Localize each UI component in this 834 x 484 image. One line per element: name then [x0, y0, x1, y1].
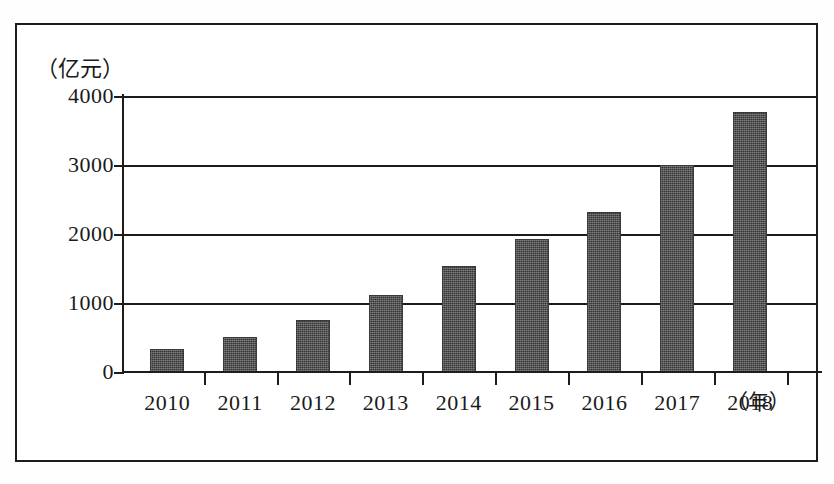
bar-2015 — [515, 239, 549, 372]
y-tick-label-1000: 1000 — [68, 292, 114, 314]
x-tick-label-2016: 2016 — [570, 392, 638, 414]
y-tick-label-3000: 3000 — [68, 154, 114, 176]
x-axis-line — [122, 371, 822, 373]
x-minor-tick-2 — [349, 373, 351, 385]
y-tick-mark-3000 — [114, 165, 124, 167]
x-minor-tick-4 — [495, 373, 497, 385]
x-minor-tick-7 — [714, 373, 716, 385]
gridline-4000 — [122, 96, 818, 98]
y-tick-label-0: 0 — [103, 361, 115, 383]
bar-2016 — [587, 212, 621, 372]
plot-area — [122, 96, 818, 372]
x-minor-tick-1 — [277, 373, 279, 385]
y-tick-label-2000: 2000 — [68, 223, 114, 245]
chart-page: （亿元） 01000200030004000 20102011201220132… — [0, 0, 834, 484]
bar-2017 — [660, 165, 694, 372]
bar-2012 — [296, 320, 330, 372]
bar-2014 — [442, 266, 476, 372]
x-minor-tick-8 — [787, 373, 789, 385]
x-axis-unit-label: （年） — [727, 392, 790, 413]
x-tick-label-2011: 2011 — [206, 392, 274, 414]
y-tick-mark-4000 — [114, 96, 124, 98]
x-tick-label-2014: 2014 — [425, 392, 493, 414]
bar-2013 — [369, 295, 403, 372]
x-axis-tick-labels: 201020112012201320142015201620172018 — [0, 392, 834, 426]
bar-2018 — [733, 112, 767, 372]
y-tick-mark-2000 — [114, 234, 124, 236]
x-tick-label-2010: 2010 — [133, 392, 201, 414]
bar-2010 — [150, 349, 184, 372]
x-minor-tick-3 — [422, 373, 424, 385]
x-minor-tick-6 — [641, 373, 643, 385]
bar-2011 — [223, 337, 257, 372]
x-minor-tick-0 — [204, 373, 206, 385]
gridline-3000 — [122, 165, 818, 167]
y-tick-label-4000: 4000 — [68, 85, 114, 107]
y-tick-mark-1000 — [114, 303, 124, 305]
x-tick-label-2012: 2012 — [279, 392, 347, 414]
y-tick-mark-0 — [114, 372, 124, 374]
x-minor-tick-5 — [568, 373, 570, 385]
x-tick-label-2017: 2017 — [643, 392, 711, 414]
x-tick-label-2015: 2015 — [498, 392, 566, 414]
gridline-2000 — [122, 234, 818, 236]
x-tick-label-2013: 2013 — [352, 392, 420, 414]
